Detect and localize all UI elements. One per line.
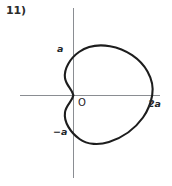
cardioid-curve <box>65 46 153 144</box>
cardioid-plot <box>0 0 172 186</box>
x-axis-label-2a: 2a <box>148 99 161 109</box>
y-axis-label-a: a <box>57 44 63 54</box>
y-axis-label-negative-a: −a <box>53 127 67 137</box>
origin-label: O <box>78 98 86 108</box>
figure-container: 11) a −a 2a O <box>0 0 172 186</box>
